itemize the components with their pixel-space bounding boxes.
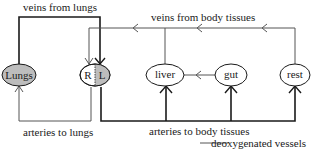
gut-label: gut [215,69,247,80]
arteries-to-lungs-label: arteries to lungs [23,127,93,138]
veins-from-body-tissues-label: veins from body tissues [151,12,255,23]
legend-label: deoxygenated vessels [211,138,306,149]
liver-label: liver [146,69,184,80]
rest-label: rest [280,69,310,80]
vein-from-lungs [19,17,100,66]
arteries-to-body-tissues-label: arteries to body tissues [149,126,250,137]
artery-to-lungs [19,86,91,121]
artery-to-body-tissues [101,86,295,121]
lungs-label: Lungs [2,70,36,81]
heart-left-label: L [96,70,108,81]
veins-from-lungs-label: veins from lungs [23,2,97,13]
vein-from-body-tissues [89,28,295,66]
heart-right-label: R [82,70,94,81]
